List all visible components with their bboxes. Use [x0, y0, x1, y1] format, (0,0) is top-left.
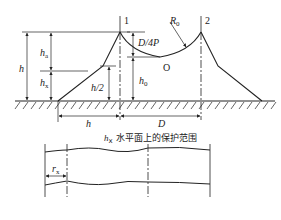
- caption: hx 水平面上的保护范围: [104, 132, 197, 145]
- dimension-h-half: h/2: [91, 67, 109, 100]
- svg-text:hx: hx: [40, 77, 49, 90]
- rod-1-label: 1: [124, 15, 129, 26]
- dimension-rx: rx: [46, 163, 66, 176]
- dimension-hx: hx: [40, 72, 51, 100]
- lightning-protection-diagram: 1 2 R0 O h ha hx h/2: [0, 0, 281, 220]
- plan-view: [45, 144, 210, 197]
- ground: [15, 101, 276, 109]
- rod-1: 1: [120, 15, 129, 120]
- r0-annotation: R0: [169, 15, 186, 47]
- svg-text:D/4P: D/4P: [137, 37, 159, 48]
- r0-label: R0: [169, 15, 180, 28]
- protection-profile: [58, 32, 262, 101]
- svg-text:h: h: [86, 118, 91, 129]
- rod-2-label: 2: [205, 15, 210, 26]
- svg-text:D: D: [157, 118, 166, 129]
- svg-text:h: h: [19, 63, 24, 74]
- svg-text:rx: rx: [52, 163, 60, 176]
- dimension-h-bottom: h: [58, 101, 119, 129]
- dimension-ha: ha: [40, 33, 51, 70]
- svg-text:h/2: h/2: [91, 82, 104, 93]
- dimension-h0: h0: [133, 58, 148, 100]
- dimension-d4p: D/4P: [133, 33, 159, 56]
- dimension-d-bottom: D: [121, 116, 200, 129]
- svg-text:h0: h0: [139, 75, 148, 88]
- dimension-h-left: h: [19, 33, 27, 100]
- center-o-label: O: [163, 62, 170, 73]
- svg-text:ha: ha: [40, 47, 49, 60]
